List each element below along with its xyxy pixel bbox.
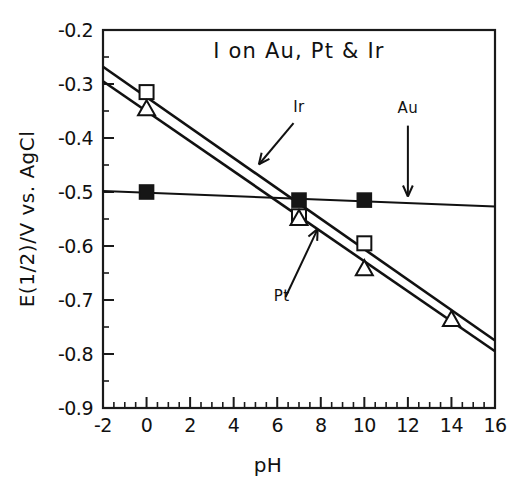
- y-tick-label: -0.9: [58, 397, 93, 419]
- x-tick-label: 14: [440, 414, 464, 436]
- x-tick-label: 4: [228, 414, 240, 436]
- annotation-label-au: Au: [398, 99, 419, 117]
- marker-au: [292, 193, 306, 207]
- x-tick-label: 0: [141, 414, 153, 436]
- marker-pt: [357, 236, 371, 250]
- annotation-arrowhead: [317, 229, 318, 241]
- y-tick-label: -0.2: [58, 19, 93, 41]
- x-tick-label: 10: [353, 414, 376, 436]
- x-tick-label: 8: [315, 414, 327, 436]
- marker-ir: [356, 260, 373, 275]
- figure-page: -20246810121416 -0.2-0.3-0.4-0.5-0.6-0.7…: [0, 0, 525, 488]
- y-axis-title: E(1/2)/V vs. AgCl: [15, 131, 39, 308]
- y-tick-label: -0.4: [58, 127, 93, 149]
- x-tick-label: 12: [396, 414, 419, 436]
- y-tick-label: -0.5: [58, 181, 93, 203]
- x-tick-label: 6: [271, 414, 283, 436]
- y-tick-label: -0.3: [58, 73, 93, 95]
- y-tick-label: -0.7: [58, 289, 93, 311]
- series-data-markers: [138, 85, 460, 326]
- x-tick-label: 16: [483, 414, 506, 436]
- x-axis-ticks: [103, 397, 495, 408]
- x-axis-tick-labels: -20246810121416: [94, 414, 507, 436]
- x-axis-title: pH: [254, 453, 283, 477]
- chart-figure: -20246810121416 -0.2-0.3-0.4-0.5-0.6-0.7…: [0, 0, 525, 488]
- x-tick-label: 2: [184, 414, 196, 436]
- marker-au: [140, 185, 154, 199]
- x-tick-label: -2: [94, 414, 112, 436]
- annotation-arrow-ir: [259, 123, 294, 164]
- chart-title: I on Au, Pt & Ir: [213, 39, 384, 63]
- y-tick-label: -0.6: [58, 235, 93, 257]
- marker-au: [357, 193, 371, 207]
- y-tick-label: -0.8: [58, 343, 93, 365]
- annotation-arrow-pt: [286, 229, 318, 297]
- marker-pt: [140, 85, 154, 99]
- annotation-label-ir: Ir: [293, 98, 305, 116]
- y-axis-tick-labels: -0.2-0.3-0.4-0.5-0.6-0.7-0.8-0.9: [58, 19, 93, 419]
